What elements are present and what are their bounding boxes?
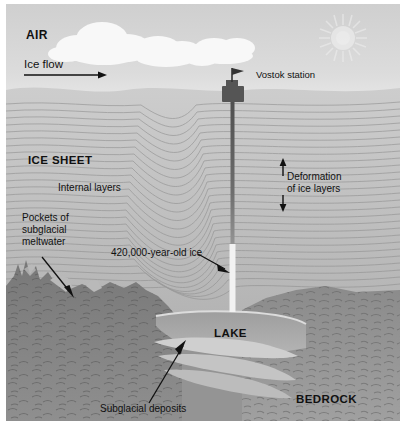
vostok-cross-section-figure: AIR Ice flow Vostok station ICE SHEET In…	[6, 4, 400, 421]
label-pockets-meltwater: Pockets of subglacial meltwater	[22, 212, 69, 247]
label-lake: LAKE	[214, 327, 247, 341]
label-vostok-station: Vostok station	[256, 69, 315, 80]
label-subglacial-deposits: Subglacial deposits	[100, 403, 186, 415]
borehole-shaft	[231, 98, 235, 256]
label-bedrock: BEDROCK	[296, 393, 357, 407]
old-ice-core-column	[230, 244, 236, 312]
label-ice-flow: Ice flow	[24, 58, 63, 72]
sun-icon	[319, 14, 367, 62]
label-old-ice: 420,000-year-old ice	[111, 247, 202, 259]
label-air: AIR	[26, 28, 48, 42]
label-internal-layers: Internal layers	[58, 182, 121, 194]
label-deformation: Deformation of ice layers	[287, 171, 341, 195]
label-ice-sheet: ICE SHEET	[28, 154, 92, 168]
